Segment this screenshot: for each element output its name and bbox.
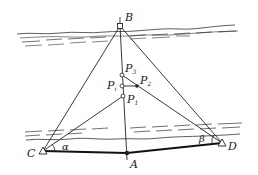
point-Pi-marker <box>120 84 124 88</box>
diagram-svg: B C A D P3 Pi P2 P1 α β <box>0 0 258 175</box>
label-B: B <box>124 11 133 24</box>
label-A: A <box>129 158 138 171</box>
point-P3-marker <box>120 73 124 77</box>
label-C: C <box>27 147 36 160</box>
label-P1: P1 <box>126 93 138 106</box>
near-river-bank <box>25 123 242 140</box>
baseline-A-D <box>127 143 222 153</box>
station-A-marker <box>125 151 129 155</box>
label-P2: P2 <box>139 74 151 87</box>
station-B-marker <box>118 24 123 29</box>
label-D: D <box>227 140 237 153</box>
label-beta: β <box>198 133 205 144</box>
label-P3: P3 <box>124 62 136 75</box>
line-C-P1 <box>43 96 123 151</box>
triangulation-diagram: B C A D P3 Pi P2 P1 α β <box>0 0 258 175</box>
baseline-C-A <box>43 151 127 153</box>
far-river-bank <box>17 25 238 46</box>
label-alpha: α <box>62 141 69 152</box>
line-B-A <box>120 26 127 160</box>
label-Pi: Pi <box>106 79 116 92</box>
baseline <box>43 143 222 153</box>
angle-alpha-arc <box>52 144 55 151</box>
point-P1-marker <box>121 94 125 98</box>
point-P2-marker <box>135 84 139 88</box>
